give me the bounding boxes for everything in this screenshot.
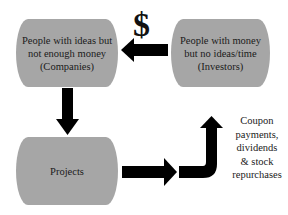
returns-line3: dividends (226, 141, 288, 155)
companies-box: People with ideas but not enough money (… (16, 19, 118, 87)
returns-line2: payments, (226, 128, 288, 142)
dollar-icon: $ (133, 8, 150, 42)
projects-label: Projects (50, 165, 84, 178)
returns-line1: Coupon (226, 114, 288, 128)
returns-line4: & stock (226, 155, 288, 169)
projects-box: Projects (16, 137, 118, 205)
returns-line5: repurchases (226, 168, 288, 182)
companies-line3: (Companies) (22, 60, 112, 73)
returns-label: Coupon payments, dividends & stock repur… (226, 114, 288, 182)
arrow-down-icon (56, 88, 79, 135)
investors-box: People with money but no ideas/time (Inv… (171, 19, 270, 87)
investors-line3: (Investors) (180, 60, 261, 73)
companies-line2: not enough money (22, 47, 112, 60)
investors-line1: People with money (180, 34, 261, 47)
investors-line2: but no ideas/time (180, 47, 261, 60)
arrow-bent-up-icon (179, 116, 223, 178)
arrow-right-icon (122, 158, 177, 186)
companies-line1: People with ideas but (22, 34, 112, 47)
